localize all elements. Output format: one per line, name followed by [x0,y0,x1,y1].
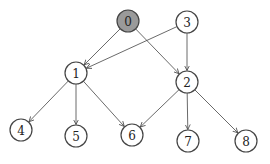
node-3: 3 [176,11,198,33]
edge-1-to-6 [83,81,124,126]
node-label: 5 [72,130,80,144]
node-0: 0 [117,10,139,32]
node-7: 7 [177,130,199,152]
node-6: 6 [121,124,143,146]
edge-3-to-1 [86,27,177,69]
dag-diagram: 012345678 [0,0,270,164]
node-4: 4 [10,119,32,141]
node-label: 4 [17,124,25,138]
edge-2-to-8 [195,90,238,133]
node-label: 8 [242,135,250,149]
node-2: 2 [176,71,198,93]
edge-2-to-7 [187,93,188,130]
node-label: 0 [124,15,132,29]
node-5: 5 [65,125,87,147]
node-label: 1 [72,67,80,81]
edge-1-to-4 [29,81,68,122]
node-label: 2 [183,76,191,90]
edge-2-to-6 [140,90,179,127]
node-1: 1 [65,62,87,84]
node-8: 8 [235,130,257,152]
edge-0-to-1 [84,29,120,65]
node-label: 6 [128,129,136,143]
node-label: 7 [184,135,192,149]
node-label: 3 [183,16,191,30]
